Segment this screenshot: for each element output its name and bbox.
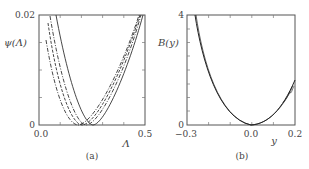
panel-b-curve-main	[195, 15, 295, 125]
panel-a-ticks	[39, 15, 145, 125]
panel-a-caption: (a)	[86, 151, 98, 161]
panel-b-curve-wiggle	[283, 86, 294, 103]
panel-b-ticks	[187, 15, 273, 125]
panel-b-xlabel: y	[270, 135, 277, 146]
panel-b-ylabel: B(y)	[157, 37, 179, 48]
panel-a-ytick-top: 0.02	[15, 10, 35, 20]
panel-b-xtick-right: 0.2	[288, 129, 302, 139]
panel-b-curves	[195, 15, 295, 125]
panel-a-ylabel: ψ(Λ)	[4, 37, 27, 48]
panel-b: 4 0 B(y) −0.3 0.0 0.2 y (b)	[157, 10, 302, 161]
panel-a: 0.02 0 ψ(Λ) 0.0 0.5 Λ (a)	[4, 10, 152, 161]
figure: 0.02 0 ψ(Λ) 0.0 0.5 Λ (a)	[0, 0, 309, 169]
panel-b-xtick-mid: 0.0	[244, 129, 259, 139]
panel-b-ytick-top: 4	[178, 10, 184, 20]
panel-b-caption: (b)	[236, 151, 249, 161]
panel-b-xtick-left: −0.3	[175, 129, 197, 139]
panel-a-xtick-right: 0.5	[138, 129, 153, 139]
panel-a-curves	[46, 15, 143, 125]
panel-a-frame	[39, 15, 145, 125]
panel-a-curve-2	[50, 15, 141, 125]
panel-a-xtick-left: 0.0	[34, 129, 49, 139]
panel-a-curve-3	[48, 15, 140, 125]
panel-a-xlabel: Λ	[121, 138, 129, 149]
